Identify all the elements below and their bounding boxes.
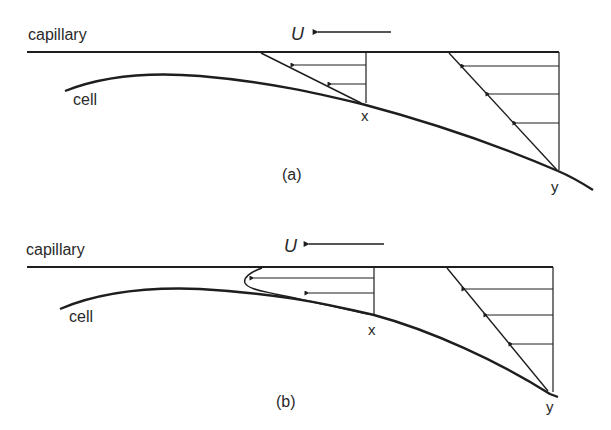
panel-b: capillary U cell x y (b) — [26, 236, 558, 415]
panel-a-caption: (a) — [282, 166, 302, 183]
lubrication-flow-diagram: capillary U cell x y (a) capillary U — [0, 0, 611, 430]
point-x-label: x — [361, 107, 369, 124]
velocity-label-U: U — [291, 24, 305, 44]
cell-surface — [65, 74, 593, 190]
velocity-profile-x — [245, 267, 374, 314]
point-y-label: y — [551, 178, 559, 195]
cell-surface — [60, 289, 558, 397]
capillary-label: capillary — [26, 241, 85, 258]
velocity-profile-y — [449, 52, 559, 170]
point-y-label: y — [546, 398, 554, 415]
capillary-label: capillary — [28, 26, 87, 43]
cell-label: cell — [69, 308, 93, 325]
velocity-profile-y — [447, 267, 553, 392]
point-x-label: x — [368, 321, 376, 338]
velocity-profile-x — [261, 52, 366, 103]
cell-label: cell — [73, 91, 97, 108]
panel-b-caption: (b) — [276, 393, 296, 410]
panel-a: capillary U cell x y (a) — [27, 24, 593, 195]
velocity-label-U: U — [284, 236, 298, 256]
